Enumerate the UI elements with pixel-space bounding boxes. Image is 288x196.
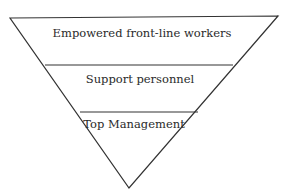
layer-label-top-management: Top Management: [83, 119, 185, 131]
layer-label-support-personnel: Support personnel: [86, 74, 195, 86]
pyramid-outline: [10, 16, 278, 188]
layer-label-front-line-workers: Empowered front-line workers: [53, 28, 232, 40]
